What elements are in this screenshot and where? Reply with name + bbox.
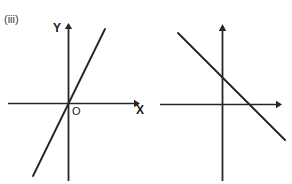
- plot-line-iv: [178, 33, 285, 140]
- panel-iii-graph: [0, 0, 146, 184]
- y-axis-arrowhead-iv: [219, 24, 226, 31]
- y-axis-arrowhead-iii: [65, 23, 72, 29]
- figure-root: (iii) Y X O (iv) Y X O 2 2: [0, 0, 292, 184]
- panel-iii: (iii) Y X O: [0, 0, 146, 184]
- panel-iv: (iv) Y X O 2 2: [146, 0, 292, 184]
- panel-iv-graph: [146, 0, 292, 184]
- y-axis-label-iii: Y: [53, 22, 61, 34]
- origin-label-iii: O: [72, 106, 81, 117]
- x-axis-label-iii: X: [136, 104, 144, 116]
- panel-caption-iii: (iii): [4, 14, 19, 25]
- x-axis-arrowhead-iv: [276, 101, 282, 108]
